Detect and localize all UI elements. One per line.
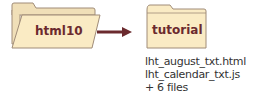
file-list: lht_august_txt.html lht_calendar_txt.js … — [145, 55, 246, 94]
source-folder-back — [12, 3, 95, 15]
target-folder-label: tutorial — [152, 23, 203, 37]
source-folder-label: html10 — [35, 24, 83, 38]
file-item: lht_august_txt.html — [145, 55, 246, 68]
arrow-head — [122, 27, 132, 37]
file-item: lht_calendar_txt.js — [145, 68, 246, 81]
file-count: + 6 files — [145, 81, 246, 94]
